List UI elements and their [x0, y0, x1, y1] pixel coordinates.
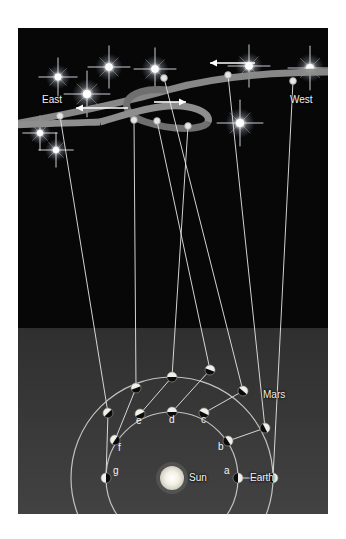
- sky-marker-g: [57, 113, 64, 120]
- position-label-g: g: [113, 465, 119, 476]
- position-label-f: f: [118, 442, 121, 453]
- label-earth: Earth: [250, 473, 274, 483]
- sky-marker-a: [290, 78, 297, 85]
- celestial-band-east: [18, 122, 100, 125]
- label-east: East: [42, 95, 62, 105]
- earth-position-g: [101, 473, 111, 483]
- mars-position-e: [167, 372, 177, 382]
- label-sun: Sun: [189, 473, 207, 483]
- sky-marker-b: [225, 72, 232, 79]
- figure-stage: abcdefg East West Mars Sun Earth: [0, 0, 346, 539]
- sky-marker-c: [161, 75, 168, 82]
- position-label-b: b: [218, 441, 224, 452]
- position-label-c: c: [201, 414, 206, 425]
- position-label-e: e: [136, 415, 142, 426]
- position-label-a: a: [224, 465, 230, 476]
- label-west: West: [290, 95, 313, 105]
- sky-marker-f: [131, 117, 138, 124]
- sky-marker-d: [154, 118, 161, 125]
- sun-disk: [160, 466, 184, 490]
- sky-marker-e: [185, 123, 192, 130]
- retrograde-motion-diagram: abcdefg: [18, 28, 328, 514]
- earth-position-a: [233, 473, 243, 483]
- label-mars: Mars: [263, 390, 285, 400]
- position-label-d: d: [169, 414, 175, 425]
- diagram-canvas: abcdefg: [18, 28, 328, 514]
